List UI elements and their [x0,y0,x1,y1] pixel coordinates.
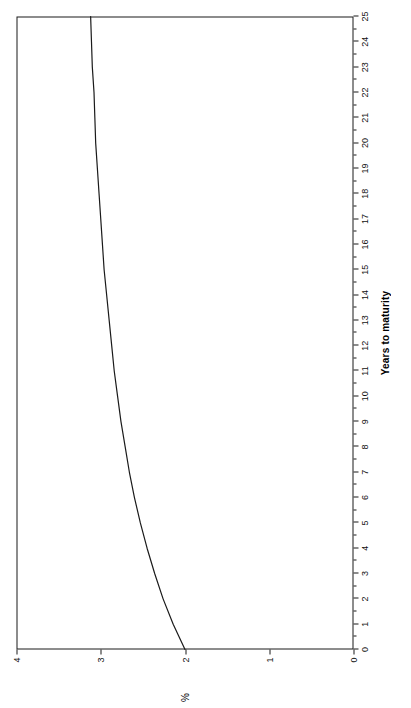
x-tick-label-10: 10 [360,392,370,402]
x-tick-label-19: 19 [360,164,370,174]
x-tick-19 [354,168,359,169]
y-tick-label-0: 0 [349,658,359,663]
yield-curve-figure: 0123456789101112131415161718192021222324… [0,0,411,708]
x-tick-minor [354,206,357,207]
y-axis-title: % [17,688,354,708]
x-tick-minor [354,79,357,80]
x-tick-minor [354,358,357,359]
x-tick-minor [354,257,357,258]
x-tick-16 [354,244,359,245]
x-tick-label-21: 21 [360,113,370,123]
figure-rotator: 0123456789101112131415161718192021222324… [0,0,411,708]
x-tick-8 [354,446,359,447]
x-tick-1 [354,624,359,625]
x-tick-21 [354,117,359,118]
y-tick-label-4: 4 [12,658,22,663]
y-tick-2 [186,650,187,655]
y-tick-label-1: 1 [265,658,275,663]
x-tick-14 [354,295,359,296]
x-tick-minor [354,29,357,30]
y-axis-title-text: % [180,694,191,703]
y-tick-1 [270,650,271,655]
x-tick-label-1: 1 [360,622,370,627]
x-axis-title: Years to maturity [380,17,391,650]
x-tick-20 [354,143,359,144]
x-tick-label-20: 20 [360,139,370,149]
x-tick-minor [354,54,357,55]
x-tick-25 [354,16,359,17]
x-tick-label-3: 3 [360,572,370,577]
x-tick-15 [354,269,359,270]
x-tick-label-9: 9 [360,420,370,425]
x-tick-label-17: 17 [360,215,370,225]
x-tick-minor [354,636,357,637]
x-tick-0 [354,649,359,650]
x-tick-minor [354,611,357,612]
x-tick-24 [354,41,359,42]
x-tick-6 [354,497,359,498]
x-tick-minor [354,383,357,384]
x-tick-label-16: 16 [360,240,370,250]
x-tick-label-12: 12 [360,341,370,351]
y-tick-label-3: 3 [96,658,106,663]
x-tick-minor [354,231,357,232]
x-tick-minor [354,484,357,485]
x-tick-label-8: 8 [360,445,370,450]
x-tick-label-24: 24 [360,37,370,47]
x-tick-minor [354,560,357,561]
x-tick-17 [354,219,359,220]
y-axis: 01234 [17,650,354,690]
y-tick-3 [101,650,102,655]
x-tick-label-6: 6 [360,496,370,501]
x-tick-9 [354,421,359,422]
yield-curve-line [17,17,354,650]
x-tick-label-25: 25 [360,12,370,22]
x-tick-4 [354,548,359,549]
y-tick-4 [17,650,18,655]
y-tick-0 [354,650,355,655]
x-tick-label-22: 22 [360,88,370,98]
x-tick-minor [354,510,357,511]
x-tick-11 [354,370,359,371]
x-tick-minor [354,130,357,131]
x-tick-minor [354,333,357,334]
x-tick-label-2: 2 [360,597,370,602]
x-tick-label-7: 7 [360,470,370,475]
x-tick-label-11: 11 [360,367,370,376]
x-tick-minor [354,155,357,156]
x-tick-minor [354,408,357,409]
x-tick-label-18: 18 [360,189,370,199]
x-tick-5 [354,522,359,523]
x-tick-12 [354,345,359,346]
x-tick-2 [354,598,359,599]
x-tick-3 [354,573,359,574]
x-tick-minor [354,434,357,435]
x-tick-23 [354,67,359,68]
x-tick-18 [354,193,359,194]
x-tick-label-4: 4 [360,546,370,551]
x-tick-label-13: 13 [360,316,370,326]
x-tick-22 [354,92,359,93]
x-tick-minor [354,459,357,460]
x-tick-label-5: 5 [360,521,370,526]
y-tick-label-2: 2 [181,658,191,663]
x-tick-minor [354,586,357,587]
x-tick-minor [354,282,357,283]
x-tick-label-23: 23 [360,63,370,73]
x-tick-7 [354,472,359,473]
x-tick-minor [354,535,357,536]
x-tick-label-15: 15 [360,265,370,275]
x-tick-label-0: 0 [360,647,370,652]
x-tick-10 [354,396,359,397]
x-tick-minor [354,307,357,308]
x-tick-minor [354,105,357,106]
x-tick-minor [354,181,357,182]
x-tick-13 [354,320,359,321]
x-tick-label-14: 14 [360,291,370,301]
